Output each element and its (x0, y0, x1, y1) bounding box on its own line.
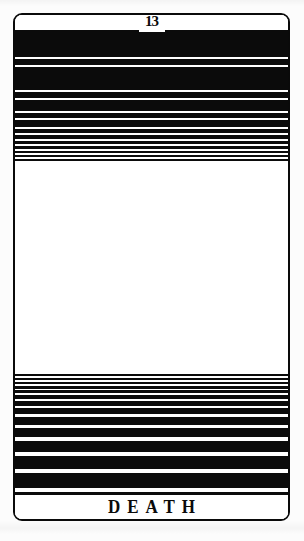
card-footer-band: DEATH (15, 495, 288, 519)
ink-stripe (15, 395, 288, 399)
scan-page: 13 DEATH (0, 0, 304, 541)
ink-stripe (15, 135, 288, 139)
ink-stripe (15, 408, 288, 414)
ink-stripe (15, 155, 288, 157)
card-face: 13 DEATH (15, 15, 288, 519)
ink-stripe (15, 59, 288, 65)
ink-stripe (15, 428, 288, 437)
ink-stripe (15, 113, 288, 118)
ink-stripe (15, 386, 288, 389)
ink-stripe (15, 151, 288, 153)
ink-stripe (15, 129, 288, 133)
ink-stripe (15, 417, 288, 425)
ink-stripe (15, 441, 288, 452)
ink-stripe (15, 146, 288, 149)
ink-stripe (15, 67, 288, 90)
ink-stripe (15, 382, 288, 384)
ink-stripe (15, 120, 288, 127)
ink-stripe (15, 100, 288, 111)
tarot-card: 13 DEATH (13, 13, 290, 521)
card-numeral: 13 (145, 14, 158, 29)
ink-stripe (15, 456, 288, 469)
card-title: DEATH (101, 498, 202, 516)
ink-stripe (15, 390, 288, 393)
ink-stripe (15, 401, 288, 406)
ink-stripe (15, 473, 288, 488)
central-blank-field (15, 161, 288, 374)
ink-stripe (15, 30, 288, 57)
lower-stripe-band (15, 374, 288, 509)
upper-stripe-band (15, 30, 288, 161)
ink-stripe (15, 374, 288, 376)
ink-stripe (15, 92, 288, 98)
ink-stripe (15, 141, 288, 144)
ink-stripe (15, 378, 288, 380)
